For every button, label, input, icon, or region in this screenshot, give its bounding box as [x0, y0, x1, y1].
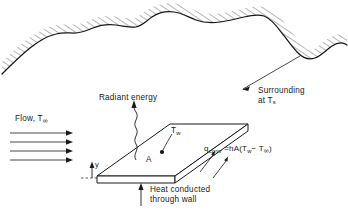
heat-transfer-figure: Surrounding at Ts Radiant energy Flow, T… — [0, 0, 348, 213]
surrounding-label-subscript: s — [273, 99, 276, 105]
flow-label-subscript: ∞ — [43, 117, 48, 124]
flow-label-prefix: Flow, T — [15, 114, 43, 123]
figure-linework — [0, 0, 348, 213]
conduction-label: Heat conducted through wall — [150, 185, 210, 204]
flow-arrowheads — [66, 130, 73, 162]
conduction-arrow — [138, 183, 143, 206]
flow-arrows — [10, 133, 66, 160]
equation-rhs-end: ) — [269, 144, 272, 153]
equation-rhs-sub2: ∞ — [264, 147, 269, 154]
y-axis-label: y — [95, 161, 99, 170]
wall-temperature-subscript: w — [176, 130, 180, 136]
surrounding-boundary — [2, 12, 347, 74]
equation-rhs-sub1: w — [247, 148, 251, 154]
wall-temperature-label: Tw — [171, 126, 181, 136]
surrounding-label-line2: at T — [258, 96, 273, 105]
conduction-label-line2: through wall — [150, 195, 197, 204]
flow-label: Flow, T∞ — [15, 114, 48, 124]
convection-equation-label: qconv =hA(Tw− T∞) — [204, 144, 272, 153]
surrounding-label-line1: Surrounding — [258, 86, 305, 95]
surrounding-label: Surrounding at Ts — [258, 86, 305, 105]
equation-rhs: =hA(T — [222, 144, 247, 153]
conduction-label-line1: Heat conducted — [150, 185, 210, 194]
q-conv-symbol: q — [204, 144, 209, 153]
radiant-energy-label: Radiant energy — [99, 93, 157, 103]
q-conv-subscript: conv — [209, 148, 222, 154]
equation-rhs-mid: − T — [252, 144, 264, 153]
area-label: A — [146, 155, 152, 165]
